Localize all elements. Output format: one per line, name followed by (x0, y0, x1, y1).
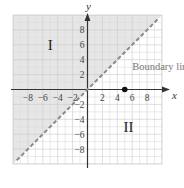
y-tick-label: 2 (80, 70, 85, 80)
y-tick-label: 4 (80, 55, 85, 65)
y-axis-label: y (85, 0, 91, 12)
y-tick-label: −6 (74, 130, 84, 140)
x-tick-label: 2 (100, 93, 105, 103)
x-axis-label: x (171, 89, 177, 101)
points (122, 87, 128, 93)
y-tick-label: −2 (74, 100, 84, 110)
coordinate-plane: −8−6−4−224688642−2−4−6−8 Boundary lineII… (0, 0, 184, 188)
region-label: I (48, 37, 53, 53)
data-point (122, 87, 128, 93)
x-tick-label: −8 (23, 93, 33, 103)
region-label: II (123, 119, 133, 135)
x-tick-label: 6 (130, 93, 135, 103)
y-tick-label: −8 (74, 145, 84, 155)
x-axis-arrow (162, 87, 170, 93)
y-tick-label: −4 (74, 115, 84, 125)
y-tick-label: 6 (80, 40, 85, 50)
x-tick-label: −4 (53, 93, 63, 103)
y-tick-label: 8 (80, 25, 85, 35)
x-tick-label: 8 (145, 93, 150, 103)
x-tick-label: 4 (115, 93, 120, 103)
boundary-line-label: Boundary line (132, 61, 184, 72)
x-tick-label: −6 (38, 93, 48, 103)
